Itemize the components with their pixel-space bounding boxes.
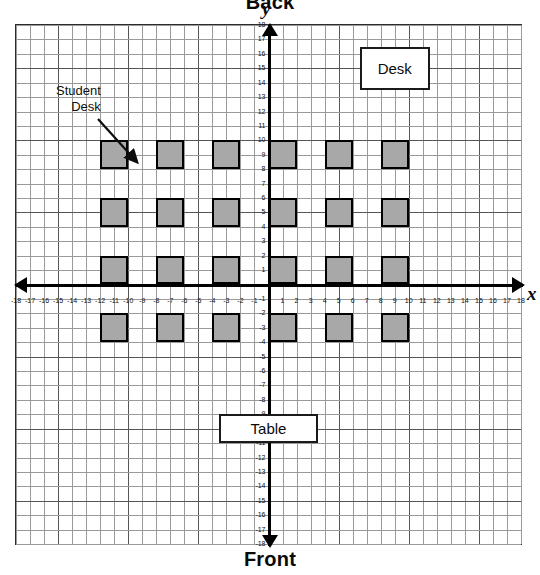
x-tick-label: 8 (379, 297, 383, 305)
desk-r3-c6[interactable] (381, 256, 409, 285)
table-box[interactable]: Table (219, 414, 317, 443)
desk-r2-c1[interactable] (100, 198, 128, 227)
x-tick-label: 5 (337, 297, 341, 305)
annotation-pointer-icon (96, 117, 156, 172)
desk-r2-c2[interactable] (156, 198, 184, 227)
annotation-line-1: Student (56, 83, 101, 99)
x-tick-label: -12 (95, 297, 105, 305)
y-tick-label: -6 (253, 367, 266, 375)
desk-r4-c4[interactable] (269, 313, 297, 342)
desk-r2-c6[interactable] (381, 198, 409, 227)
x-tick-label: 2 (295, 297, 299, 305)
x-tick-label: -16 (39, 297, 49, 305)
x-tick-label: 11 (419, 297, 426, 305)
student-desk-annotation: Student Desk (56, 83, 101, 115)
desk-r3-c3[interactable] (212, 256, 240, 285)
x-tick-label: 13 (447, 297, 455, 305)
desk-r4-c2[interactable] (156, 313, 184, 342)
x-tick-label: 10 (405, 297, 413, 305)
y-tick-label: 17 (253, 35, 266, 43)
y-tick-label: -12 (253, 454, 266, 462)
x-tick-label: 16 (489, 297, 497, 305)
x-tick-label: -5 (195, 297, 201, 305)
desk-r2-c5[interactable] (325, 198, 353, 227)
x-tick-label: -7 (167, 297, 173, 305)
y-tick-label: -7 (253, 381, 266, 389)
y-axis-letter: y (262, 0, 270, 20)
y-tick-label: 8 (253, 165, 266, 173)
desk-r4-c6[interactable] (381, 313, 409, 342)
y-tick-label: -17 (253, 526, 266, 534)
x-tick-label: -11 (109, 297, 119, 305)
y-tick-label: -14 (253, 482, 266, 490)
y-tick-label: 6 (253, 194, 266, 202)
y-tick-label: 10 (253, 136, 266, 144)
y-tick-label: 15 (253, 64, 266, 72)
desk-r1-c4[interactable] (269, 140, 297, 169)
y-tick-label: 4 (253, 223, 266, 231)
desk-r1-c5[interactable] (325, 140, 353, 169)
x-tick-label: 18 (517, 297, 525, 305)
desk-r1-c6[interactable] (381, 140, 409, 169)
annotation-line-2: Desk (56, 99, 101, 115)
y-tick-label: -1 (253, 295, 266, 303)
y-tick-label: -13 (253, 468, 266, 476)
y-tick-label: -8 (253, 396, 266, 404)
x-tick-label: 7 (365, 297, 369, 305)
desk-r3-c5[interactable] (325, 256, 353, 285)
y-tick-label: 16 (253, 50, 266, 58)
x-tick-label: -2 (237, 297, 243, 305)
desk-r3-c2[interactable] (156, 256, 184, 285)
x-axis-letter: x (527, 283, 537, 305)
x-tick-label: 17 (503, 297, 511, 305)
y-tick-label: -2 (253, 309, 266, 317)
diagram-stage: Back Front y x -18-17-16-15-14-13-12-11-… (0, 0, 540, 575)
y-tick-label: 14 (253, 79, 266, 87)
desk-r4-c1[interactable] (100, 313, 128, 342)
x-tick-label: -13 (81, 297, 91, 305)
coordinate-grid-panel: -18-17-16-15-14-13-12-11-10-9-8-7-6-5-4-… (15, 24, 522, 545)
x-tick-label: -18 (11, 297, 21, 305)
y-tick-label: -18 (253, 540, 266, 548)
desk-r3-c1[interactable] (100, 256, 128, 285)
y-tick-label: 2 (253, 252, 266, 260)
x-tick-label: -9 (139, 297, 145, 305)
x-tick-label: 1 (281, 297, 285, 305)
x-tick-label: -17 (25, 297, 35, 305)
x-tick-label: -10 (123, 297, 133, 305)
x-tick-label: -15 (53, 297, 63, 305)
x-tick-label: 9 (393, 297, 397, 305)
x-tick-label: 12 (433, 297, 441, 305)
y-tick-label: 18 (253, 21, 266, 29)
desk-r1-c2[interactable] (156, 140, 184, 169)
y-tick-label: 12 (253, 108, 266, 116)
x-tick-label: -4 (209, 297, 215, 305)
arrow-right-icon (512, 277, 525, 293)
y-tick-label: 1 (253, 266, 266, 274)
x-tick-label: -8 (153, 297, 159, 305)
x-tick-label: 4 (323, 297, 327, 305)
y-tick-label: 11 (253, 122, 266, 130)
desk-r3-c4[interactable] (269, 256, 297, 285)
x-tick-label: -3 (223, 297, 229, 305)
desk-r2-c3[interactable] (212, 198, 240, 227)
x-tick-label: 6 (351, 297, 355, 305)
y-axis-line (268, 25, 271, 546)
y-tick-label: -15 (253, 497, 266, 505)
desk-r2-c4[interactable] (269, 198, 297, 227)
y-tick-label: 7 (253, 180, 266, 188)
arrow-left-icon (14, 277, 27, 293)
y-tick-label: -5 (253, 353, 266, 361)
y-tick-label: -4 (253, 338, 266, 346)
y-tick-label: 13 (253, 93, 266, 101)
desk-r4-c3[interactable] (212, 313, 240, 342)
y-tick-label: 5 (253, 208, 266, 216)
teacher-desk-box[interactable]: Desk (360, 47, 430, 90)
front-label: Front (0, 548, 540, 571)
y-tick-label: 9 (253, 151, 266, 159)
x-tick-label: 3 (309, 297, 313, 305)
desk-r1-c3[interactable] (212, 140, 240, 169)
x-tick-label: 15 (475, 297, 483, 305)
y-tick-label: -16 (253, 511, 266, 519)
desk-r4-c5[interactable] (325, 313, 353, 342)
